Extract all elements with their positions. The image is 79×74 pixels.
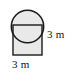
- right-dimension-label: 3 m: [47, 29, 64, 40]
- bottom-dimension-label: 3 m: [12, 59, 29, 70]
- geometry-figure: 3 m 3 m: [0, 0, 79, 74]
